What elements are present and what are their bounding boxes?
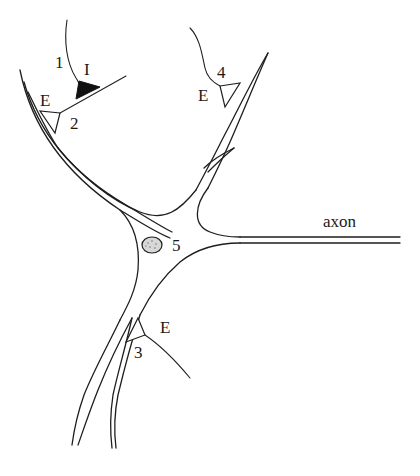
excitatory-synapse-4-icon (220, 83, 240, 107)
label-axon: axon (323, 212, 357, 231)
fiber-2 (60, 76, 126, 113)
inhibitory-synapse-icon (76, 81, 100, 99)
label-synapse-3: 3 (134, 343, 143, 362)
dendrite-side-branch (204, 148, 234, 172)
label-synapse-2: 2 (70, 114, 79, 133)
label-nucleus-5: 5 (172, 236, 181, 255)
fiber-4 (190, 28, 220, 86)
label-excitatory-3: E (160, 318, 170, 337)
label-excitatory-2: E (40, 91, 50, 110)
neuron-diagram: 1 I E 2 4 E 5 axon E 3 (0, 0, 420, 476)
soma (58, 148, 240, 320)
nucleus (142, 237, 162, 253)
label-inhibitory: I (84, 60, 90, 79)
label-synapse-4: 4 (217, 63, 226, 82)
axon (240, 237, 400, 243)
fiber-1 (66, 20, 79, 83)
label-excitatory-4: E (198, 86, 208, 105)
label-fiber-1: 1 (55, 53, 64, 72)
fiber-3 (145, 335, 190, 378)
